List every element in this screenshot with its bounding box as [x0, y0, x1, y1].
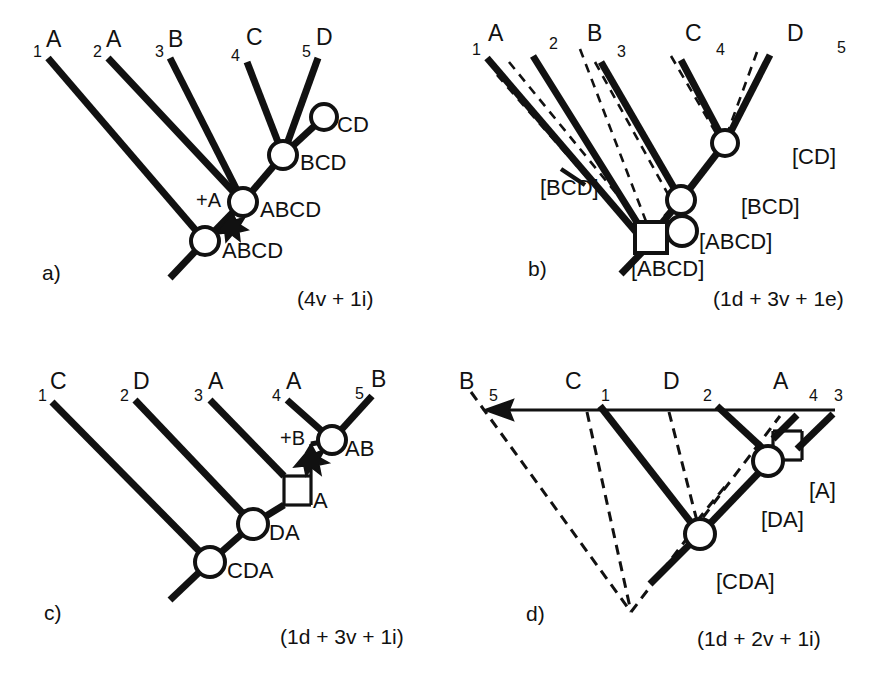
tip-taxon-a: A — [488, 22, 503, 45]
tip-taxon-5: D — [316, 26, 333, 49]
node-circle-abcd-upper — [229, 188, 257, 216]
branch-tip-3 — [210, 400, 284, 476]
node-circle-da — [238, 509, 268, 539]
tip-taxon-1: C — [50, 370, 67, 393]
node-circle-ab — [318, 426, 346, 454]
node-circle-abcd-lower — [191, 227, 219, 255]
panel-d: B 5 C 1 D 2 A 4 3 [A] [DA] [CDA] d) (1d … — [435, 344, 875, 688]
tip-number-1: 1 — [601, 388, 610, 404]
tip-number-2: 2 — [93, 44, 102, 60]
tip-number-4: 4 — [809, 388, 818, 404]
tip-taxon-b: B — [459, 370, 474, 393]
tip-number-1: 1 — [472, 42, 481, 58]
node-label-ab: AB — [345, 438, 374, 460]
tip-number-2: 2 — [549, 36, 558, 52]
branch-label-bcd: [BCD] — [540, 177, 599, 199]
tip-number-1: 1 — [38, 388, 47, 404]
branch-tip-1 — [52, 402, 210, 562]
tip-number-3: 3 — [834, 388, 843, 404]
panel-cost-b: (1d + 3v + 1e) — [713, 288, 844, 309]
node-label-abcd-square: [ABCD] — [631, 258, 704, 280]
node-circle-da — [753, 446, 783, 476]
tip-taxon-5: B — [371, 368, 386, 391]
node-label-a-square: A — [313, 490, 328, 512]
tip-taxon-1: A — [46, 28, 61, 51]
tip-number-5: 5 — [489, 388, 498, 404]
node-label-a-square: [A] — [809, 480, 836, 502]
tip-number-5: 5 — [302, 44, 311, 60]
tip-taxon-3: B — [168, 28, 183, 51]
tip-taxon-a: A — [773, 370, 788, 393]
gain-label-plus-b: +B — [280, 428, 305, 448]
tip-number-4: 4 — [272, 388, 281, 404]
node-label-abcd-upper: ABCD — [260, 199, 321, 221]
tip-number-3: 3 — [617, 44, 626, 60]
branch-tip-2 — [533, 56, 648, 240]
ghost-branch-3 — [595, 62, 674, 205]
tip-number-3: 3 — [194, 388, 203, 404]
node-label-bcd: [BCD] — [741, 196, 800, 218]
node-label-abcd-lower: ABCD — [222, 240, 283, 262]
tip-taxon-2: A — [106, 28, 121, 51]
node-circle-bcd — [667, 186, 695, 214]
panel-letter-d: d) — [526, 603, 545, 624]
tip-taxon-3: A — [208, 370, 223, 393]
node-label-bcd: BCD — [300, 152, 346, 174]
panel-letter-c: c) — [44, 602, 62, 623]
node-circle-bcd — [269, 141, 297, 169]
panel-a-tree-drawing — [0, 0, 440, 344]
node-label-cd: [CD] — [792, 146, 836, 168]
node-circle-cd — [311, 104, 337, 130]
node-label-cda: CDA — [227, 560, 273, 582]
gain-label-plus-a: +A — [196, 190, 221, 210]
node-circle-cd — [712, 130, 738, 156]
tip-number-4: 4 — [716, 42, 725, 58]
node-square-abcd — [635, 222, 667, 253]
panel-c: 1 C 2 D 3 A 4 A 5 B AB A DA CDA +B c) (1… — [0, 344, 440, 688]
tip-taxon-4: C — [246, 26, 263, 49]
tip-number-4: 4 — [231, 48, 240, 64]
node-circle-abcd — [667, 216, 697, 246]
panel-letter-a: a) — [42, 262, 61, 283]
tip-taxon-d: D — [787, 22, 804, 45]
node-label-da: DA — [269, 522, 300, 544]
panel-cost-d: (1d + 2v + 1i) — [697, 628, 821, 649]
tip-number-5: 5 — [837, 40, 846, 56]
tip-taxon-c: C — [685, 22, 702, 45]
panel-letter-b: b) — [528, 258, 547, 279]
branch-tip-2 — [108, 58, 243, 202]
panel-cost-a: (4v + 1i) — [297, 288, 373, 309]
tip-number-2: 2 — [703, 388, 712, 404]
panel-a: 1 A 2 A 3 B 4 C 5 D CD BCD ABCD ABCD +A … — [0, 0, 440, 344]
tip-number-5: 5 — [355, 386, 364, 402]
time-axis-arrow — [485, 400, 835, 420]
node-circle-cda — [195, 547, 225, 577]
panel-b: 1 A 2 B 3 C 4 D 5 [CD] [BCD] [ABCD] [ABC… — [435, 0, 875, 344]
branch-tip-1 — [487, 58, 648, 246]
node-label-abcd-circle: [ABCD] — [699, 231, 772, 253]
tip-taxon-c: C — [565, 370, 582, 393]
tip-number-2: 2 — [120, 388, 129, 404]
tip-taxon-d: D — [663, 370, 680, 393]
tip-taxon-b: B — [587, 22, 602, 45]
node-label-cd: CD — [337, 114, 369, 136]
tip-taxon-4: A — [286, 370, 301, 393]
node-label-da: [DA] — [761, 509, 804, 531]
node-circle-cda — [685, 519, 715, 549]
figure-canvas: 1 A 2 A 3 B 4 C 5 D CD BCD ABCD ABCD +A … — [0, 0, 875, 688]
branch-tip-3 — [170, 58, 243, 202]
tip-taxon-2: D — [133, 370, 150, 393]
panel-cost-c: (1d + 3v + 1i) — [280, 626, 404, 647]
tip-number-1: 1 — [33, 44, 42, 60]
node-label-cda: [CDA] — [716, 571, 775, 593]
tip-number-3: 3 — [155, 44, 164, 60]
